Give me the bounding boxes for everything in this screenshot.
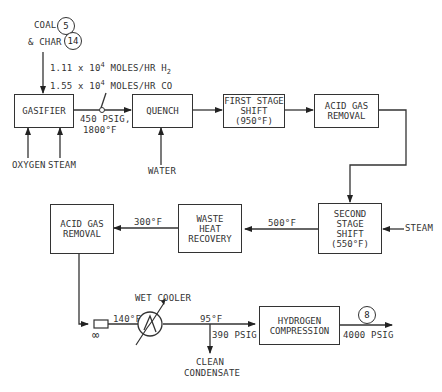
wet-cooler-label: WET COOLER [135, 293, 191, 304]
char-label: & CHAR [28, 37, 62, 48]
oxygen-label: OXYGEN [12, 160, 46, 171]
first-stage-shift-box: FIRST STAGE SHIFT (950°F) [223, 94, 285, 128]
hydrogen-compression-box: HYDROGEN COMPRESSION [259, 306, 340, 345]
flow-note-co: 1.55 x 104 MOLES/HR CO [50, 78, 172, 92]
stream-number-14: 14 [64, 32, 82, 50]
second-stage-shift-box: SECOND STAGE SHIFT (550°F) [318, 203, 382, 254]
compressor-icon: ∞ [92, 330, 99, 341]
gasifier-box: GASIFIER [14, 94, 74, 128]
steam-shift-label: STEAM [405, 223, 433, 234]
quench-box: QUENCH [132, 94, 193, 128]
waste-heat-recovery-box: WASTE HEAT RECOVERY [178, 204, 242, 253]
whr-outlet-temp: 300°F [134, 217, 162, 228]
pre-cooler-temp: 140°F [113, 314, 141, 325]
flow-note-h2: 1.11 x 104 MOLES/HR H2 [50, 60, 171, 78]
post-cooler-pressure: 390 PSIG [212, 330, 257, 341]
gasifier-outlet-pressure: 450 PSIG, [80, 114, 131, 125]
post-cooler-temp: 95°F [200, 314, 222, 325]
water-label: WATER [148, 166, 176, 177]
final-pressure: 4000 PSIG [343, 330, 394, 341]
clean-condensate-label: CLEAN CONDENSATE [184, 357, 236, 379]
acid-gas-removal-2-box: ACID GAS REMOVAL [50, 204, 114, 254]
gasifier-outlet-temp: 1800°F [83, 125, 117, 136]
shift2-outlet-temp: 500°F [268, 218, 296, 229]
coal-label: COAL [34, 20, 56, 31]
stream-number-8: 8 [358, 306, 376, 324]
steam-gasifier-label: STEAM [48, 160, 76, 171]
acid-gas-removal-1-box: ACID GAS REMOVAL [314, 94, 379, 128]
